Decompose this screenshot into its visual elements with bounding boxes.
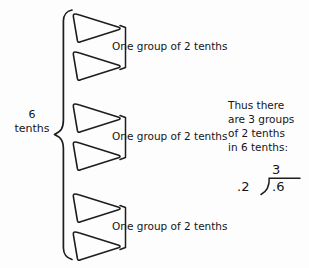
group-label: One group of 2 tenths [112,220,228,232]
conclusion-line-3: of 2 tenths [228,127,308,141]
long-division-divisor: .2 [237,179,249,194]
long-division-expression: 3 .2 .6 [228,162,306,200]
decimal-division-diagram: 6 tenths One group of 2 tenths One group… [0,0,309,268]
conclusion-line-4: in 6 tenths: [228,141,308,155]
triangle-right-icon [73,232,120,260]
group-label: One group of 2 tenths [112,130,228,142]
total-quantity-label: 6 tenths [8,108,56,136]
conclusion-line-2: are 3 groups [228,113,308,127]
conclusion-text: Thus there are 3 groups of 2 tenths in 6… [228,99,308,154]
triangle-right-icon [73,104,120,132]
triangle-right-icon [73,14,120,42]
triangle-right-icon [73,142,120,170]
conclusion-line-1: Thus there [228,99,308,113]
total-quantity-number: 6 [8,108,56,122]
total-quantity-unit: tenths [8,122,56,136]
triangle-right-icon [73,194,120,222]
group-label: One group of 2 tenths [112,40,228,52]
long-division-dividend: .6 [272,179,284,194]
triangle-right-icon [73,52,120,80]
